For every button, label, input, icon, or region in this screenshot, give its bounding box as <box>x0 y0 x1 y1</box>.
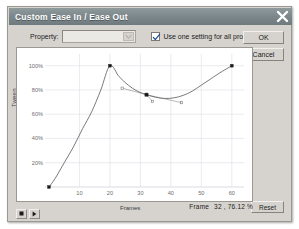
frame-readout-value: 32 , 76.12 % <box>214 203 253 210</box>
svg-text:40%: 40% <box>32 135 43 141</box>
dialog-title: Custom Ease In / Ease Out <box>9 12 128 22</box>
play-triangle-icon[interactable] <box>29 209 40 219</box>
svg-text:30: 30 <box>137 190 143 196</box>
close-icon[interactable] <box>275 9 290 24</box>
svg-text:20: 20 <box>107 190 113 196</box>
ok-button[interactable]: OK <box>243 31 284 44</box>
svg-text:60%: 60% <box>32 111 43 117</box>
ease-curve-graph[interactable]: 20%40%60%80%100% 102030405060 <box>16 47 253 202</box>
chevron-down-icon[interactable] <box>123 32 134 41</box>
ease-curve-svg[interactable]: 20%40%60%80%100% 102030405060 <box>17 48 252 201</box>
svg-text:10: 10 <box>76 190 82 196</box>
graph-footer: Frames Frame32 , 76.12 % <box>16 202 253 218</box>
stop-square-icon[interactable] <box>16 209 27 219</box>
svg-text:40: 40 <box>168 190 174 196</box>
svg-text:80%: 80% <box>32 87 43 93</box>
frame-readout: Frame32 , 76.12 % <box>189 203 253 210</box>
y-tick-labels: 20%40%60%80%100% <box>29 63 43 166</box>
reset-button[interactable]: Reset <box>251 201 284 213</box>
x-tick-labels: 102030405060 <box>76 190 235 196</box>
screen-root: Custom Ease In / Ease Out Property: <box>0 0 299 229</box>
svg-text:100%: 100% <box>29 63 43 69</box>
property-select[interactable] <box>62 30 136 43</box>
check-mark-icon[interactable] <box>151 32 160 41</box>
dialog-titlebar: Custom Ease In / Ease Out <box>9 8 292 25</box>
transport-controls <box>16 208 42 219</box>
grid-lines <box>45 54 244 187</box>
custom-ease-dialog: Custom Ease In / Ease Out Property: <box>7 6 292 222</box>
x-axis-title: Frames <box>120 205 140 211</box>
frame-readout-label: Frame <box>189 203 209 210</box>
svg-text:60: 60 <box>229 190 235 196</box>
property-label: Property: <box>30 33 58 40</box>
svg-text:50: 50 <box>198 190 204 196</box>
tangent-handles[interactable] <box>121 87 183 104</box>
svg-text:20%: 20% <box>32 160 43 166</box>
